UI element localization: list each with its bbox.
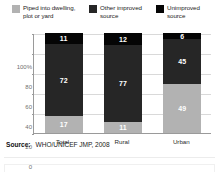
bar-segment-value: 12 (119, 36, 127, 43)
y-axis-tickmark (32, 134, 34, 135)
bar-segment-value: 11 (60, 35, 68, 42)
bar-segment: 17 (45, 116, 83, 133)
source-note: Source: WHO/UNICEF JMP, 2008 (6, 141, 110, 148)
bar-segment: 77 (104, 45, 142, 122)
legend-item-label: Other improved source (100, 4, 142, 19)
bar-urban: 64549 (163, 33, 201, 133)
chart-figure: Piped into dwelling, plot or yard Other … (0, 0, 219, 174)
x-axis-tick-label: Rural (115, 138, 130, 145)
bar-total: 117217 (45, 33, 83, 133)
y-axis-tickmark (32, 74, 34, 75)
footer-box (4, 164, 215, 172)
legend-item-unimproved-source: Unimproved source (156, 4, 216, 19)
y-axis-tickmark (32, 114, 34, 115)
legend-swatch-icon (156, 5, 164, 13)
bar-segment-value: 77 (119, 80, 127, 87)
bar-segment: 11 (104, 122, 142, 133)
bar-segment-value: 17 (60, 121, 68, 128)
plot-area: 11721712771164549 (33, 34, 211, 134)
footer-divider (4, 157, 215, 158)
chart-legend: Piped into dwelling, plot or yard Other … (0, 0, 219, 30)
bar-segment-value: 45 (178, 58, 186, 65)
bar-segment: 12 (104, 33, 142, 45)
legend-item-piped-into-dwelling: Piped into dwelling, plot or yard (12, 4, 84, 19)
legend-item-label: Piped into dwelling, plot or yard (23, 4, 75, 19)
y-axis-tick-label: 60 (25, 104, 32, 110)
chart-plot-wrapper: 020406080100% 11721712771164549 TotalRur… (0, 30, 219, 138)
legend-swatch-icon (12, 5, 20, 13)
y-axis-tickmark (32, 34, 34, 35)
y-axis-tick-label: 80 (25, 84, 32, 90)
bar-segment: 49 (163, 84, 201, 133)
bar-segment-value: 72 (60, 77, 68, 84)
y-axis: 020406080100% (6, 63, 32, 138)
legend-item-other-improved-source: Other improved source (89, 4, 151, 19)
y-axis-tick-label: 100% (17, 64, 32, 70)
source-label: Source: (6, 141, 31, 148)
y-axis-tickmark (32, 94, 34, 95)
bar-segment-value: 49 (178, 105, 186, 112)
bar-segment: 11 (45, 33, 83, 44)
x-axis-tick-label: Urban (173, 138, 190, 145)
y-axis-tick-label: 40 (25, 124, 32, 130)
bar-segment-value: 11 (119, 124, 127, 131)
bar-rural: 127711 (104, 33, 142, 133)
source-value: WHO/UNICEF JMP, 2008 (36, 141, 110, 148)
legend-swatch-icon (89, 5, 97, 13)
legend-item-label: Unimproved source (167, 4, 200, 19)
y-axis-tickmark (32, 54, 34, 55)
bar-segment: 45 (163, 39, 201, 84)
bar-segment: 72 (45, 44, 83, 116)
